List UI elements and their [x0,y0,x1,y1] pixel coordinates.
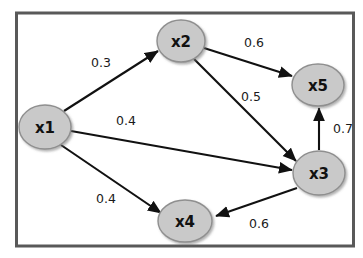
node-label-x4: x4 [175,213,195,231]
edge-x1-x2: 0.3 [64,51,158,111]
node-x4[interactable]: x4 [158,200,212,242]
edge-weight-x2-x3: 0.5 [241,89,261,104]
node-label-x1: x1 [35,119,55,137]
edge-weight-x3-x5: 0.7 [333,121,353,136]
edge-weight-x1-x4: 0.4 [96,191,116,206]
edge-line-x2-x3 [194,59,296,161]
diagram-canvas: 0.3 0.6 0.5 0.4 0.7 0.4 0. [0,0,363,258]
edge-weight-x1-x2: 0.3 [91,55,111,70]
edge-weight-x3-x4: 0.6 [249,216,269,231]
edge-x2-x3: 0.5 [194,59,296,161]
edge-line-x1-x2 [64,51,158,111]
edge-x3-x5: 0.7 [319,108,353,150]
node-label-x3: x3 [309,165,329,183]
edge-weight-x2-x5: 0.6 [244,35,264,50]
edge-x2-x5: 0.6 [204,35,292,77]
weighted-directed-graph: 0.3 0.6 0.5 0.4 0.7 0.4 0. [0,0,363,258]
node-x3[interactable]: x3 [293,151,345,195]
edge-x1-x4: 0.4 [61,145,161,213]
node-x1[interactable]: x1 [19,105,71,149]
edge-x1-x3: 0.4 [71,113,292,171]
edge-x3-x4: 0.6 [216,188,297,231]
edge-line-x1-x3 [71,131,292,170]
node-x2[interactable]: x2 [157,20,205,62]
edge-weight-x1-x3: 0.4 [116,113,136,128]
node-label-x5: x5 [308,77,328,95]
edge-line-x3-x4 [216,188,297,216]
edge-line-x2-x5 [204,48,292,76]
node-label-x2: x2 [171,33,191,51]
node-x5[interactable]: x5 [292,64,344,106]
